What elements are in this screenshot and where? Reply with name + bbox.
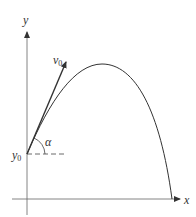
- angle-arc: [34, 138, 45, 154]
- angle-label: α: [45, 136, 51, 148]
- initial-height-subscript: 0: [17, 154, 21, 163]
- x-axis-label: x: [184, 194, 189, 206]
- velocity-subscript: 0: [58, 59, 62, 68]
- trajectory-curve: [27, 64, 172, 199]
- velocity-label: v0: [53, 54, 62, 70]
- initial-height-label: y0: [12, 149, 21, 165]
- projectile-diagram: [0, 0, 196, 217]
- y-axis-label: y: [23, 14, 28, 26]
